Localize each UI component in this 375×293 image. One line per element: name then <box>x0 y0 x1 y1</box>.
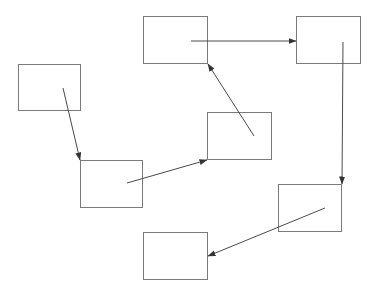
arrow-n1-to-n5 <box>63 88 80 160</box>
arrow-n4-to-n2 <box>208 64 254 136</box>
arrow-n5-to-n4 <box>127 160 207 183</box>
diagram-edges <box>0 0 375 293</box>
arrow-n3-to-n6 <box>342 42 343 184</box>
diagram-canvas <box>0 0 375 293</box>
arrow-n6-to-n7 <box>208 208 325 256</box>
